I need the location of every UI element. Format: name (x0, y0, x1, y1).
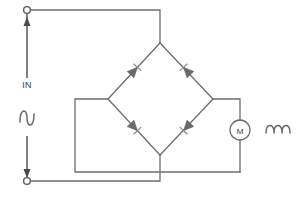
motor-label: M (237, 127, 244, 136)
sine-wave-icon (20, 111, 34, 125)
input-terminal-bottom[interactable] (24, 178, 31, 185)
motor-icon: M (230, 120, 250, 140)
input-label: IN (22, 80, 32, 90)
input-arrow-up-icon (24, 17, 31, 26)
wire-output-negative (75, 99, 240, 172)
coil-icon (266, 126, 290, 134)
bridge-rectifier (108, 43, 213, 155)
input-terminal-top[interactable] (24, 7, 31, 14)
wire-bottom-input-to-bridge (30, 155, 160, 181)
input-arrow-down-icon (24, 169, 31, 178)
wire-output-positive-upper (213, 99, 240, 120)
ac-input-branch (24, 14, 31, 178)
circuit-diagram-canvas: IN (0, 0, 308, 215)
wire-top-input-to-bridge (30, 10, 160, 43)
circuit-schematic: IN (0, 0, 308, 215)
